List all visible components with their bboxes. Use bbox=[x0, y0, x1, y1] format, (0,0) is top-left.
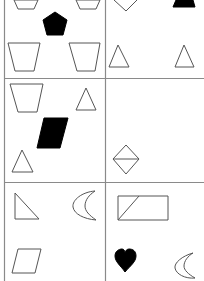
pentagon-icon bbox=[43, 12, 67, 35]
heart-icon bbox=[115, 249, 136, 272]
trapezoid-icon bbox=[8, 43, 40, 71]
cell-r2c2 bbox=[113, 145, 139, 174]
trapezoid-icon bbox=[69, 43, 100, 71]
cell-r1c2 bbox=[109, 0, 195, 67]
parallelogram-icon bbox=[37, 118, 68, 148]
rectangle-diagonal bbox=[118, 196, 139, 220]
triangle-icon bbox=[175, 45, 194, 67]
triangle-icon bbox=[12, 150, 33, 172]
cell-r3c2 bbox=[115, 196, 195, 278]
trapezoid-icon bbox=[10, 84, 43, 112]
grid-lines bbox=[4, 0, 204, 281]
filled-triangle-icon bbox=[173, 0, 195, 7]
cell-r1c1 bbox=[8, 0, 100, 71]
trapezoid-icon bbox=[76, 0, 100, 9]
right-triangle-icon bbox=[15, 193, 39, 219]
cell-r2c1 bbox=[10, 84, 96, 172]
shape-grid-diagram bbox=[0, 0, 204, 281]
trapezoid-icon bbox=[14, 0, 38, 9]
crescent-moon-icon bbox=[73, 191, 96, 220]
diagram-svg bbox=[0, 0, 204, 281]
cell-r3c1 bbox=[12, 191, 96, 273]
triangle-icon bbox=[109, 45, 129, 67]
parallelogram-icon bbox=[12, 249, 41, 273]
triangle-icon bbox=[76, 88, 96, 110]
crescent-moon-icon bbox=[175, 253, 195, 278]
rectangle-icon bbox=[118, 196, 168, 220]
diamond-icon bbox=[114, 0, 137, 11]
